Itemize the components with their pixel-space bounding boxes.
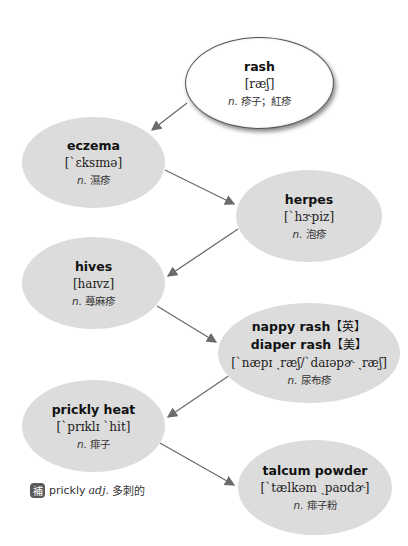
definition: n.尿布疹 <box>288 372 331 388</box>
node-eczema: eczema [`ɛksɪmə] n.濕疹 <box>22 117 165 208</box>
definition: n.疹子；紅疹 <box>228 93 291 109</box>
term: hives <box>75 258 112 275</box>
note-word: prickly <box>49 484 86 497</box>
definition: n.痱子粉 <box>294 497 337 513</box>
phonetic: [ræʃ] <box>245 75 275 93</box>
node-talcum-powder: talcum powder [`tælkəm ˏpaʊdɚ] n.痱子粉 <box>238 440 392 535</box>
note-pos: adj. <box>89 484 110 497</box>
phonetic: [`tælkəm ˏpaʊdɚ] <box>261 479 370 497</box>
phonetic: [haɪvz] <box>73 275 114 293</box>
term: eczema <box>67 137 120 154</box>
term-alt: diaper rash【美】 <box>251 336 368 354</box>
phonetic: [`næpɪ ˏræʃ/`daɪəpɚ ˏræʃ] <box>231 354 387 372</box>
note-def: 多刺的 <box>112 482 145 498</box>
supplement-note: 補 prickly adj. 多刺的 <box>30 482 145 498</box>
phonetic: [`ɛksɪmə] <box>65 154 122 172</box>
term: nappy rash【英】 <box>252 318 367 336</box>
phonetic: [`hɝpiz] <box>284 208 334 226</box>
supplement-badge-icon: 補 <box>30 483 45 498</box>
term: herpes <box>285 191 333 208</box>
term: prickly heat <box>52 401 136 418</box>
term: talcum powder <box>262 462 367 479</box>
node-prickly-heat: prickly heat [`prɪklɪ `hit] n.痱子 <box>22 380 165 472</box>
node-nappy-rash: nappy rash【英】 diaper rash【美】 [`næpɪ ˏræʃ… <box>218 303 400 403</box>
phonetic: [`prɪklɪ `hit] <box>57 418 131 436</box>
term: rash <box>244 58 275 75</box>
node-herpes: herpes [`hɝpiz] n.泡疹 <box>236 170 382 262</box>
node-rash: rash [ræʃ] n.疹子；紅疹 <box>185 37 334 129</box>
definition: n.痱子 <box>77 436 110 452</box>
node-hives: hives [haɪvz] n.蕁麻疹 <box>22 237 165 329</box>
definition: n.蕁麻疹 <box>72 293 115 309</box>
definition: n.泡疹 <box>293 226 326 242</box>
definition: n.濕疹 <box>77 172 110 188</box>
